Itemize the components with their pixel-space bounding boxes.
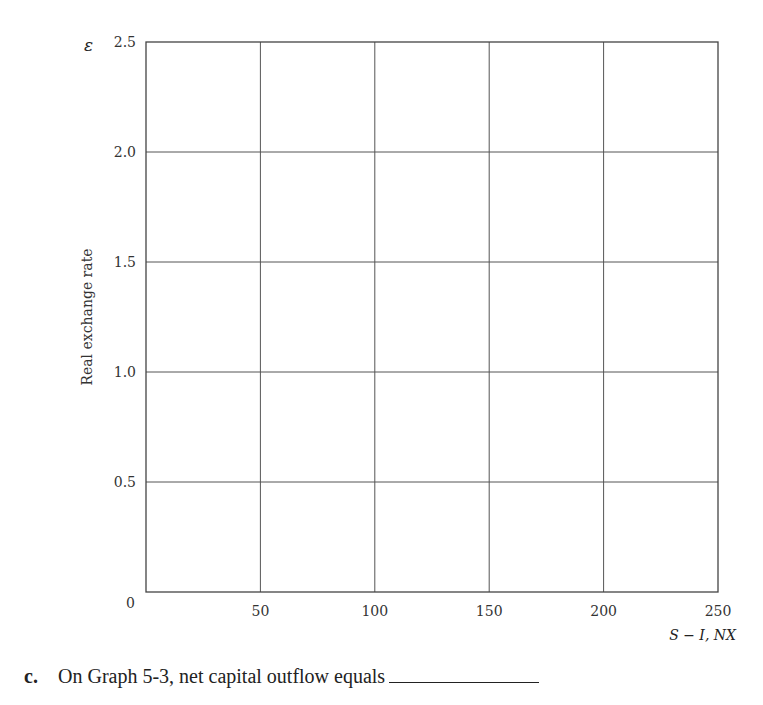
answer-blank[interactable]: [389, 664, 539, 683]
y-tick-label: 0.5: [114, 474, 136, 490]
question-c: c.On Graph 5-3, net capital outflow equa…: [24, 664, 539, 688]
question-text: On Graph 5-3, net capital outflow equals: [58, 665, 385, 687]
epsilon-symbol: ε: [84, 35, 93, 55]
blank-graph: 0.51.01.52.02.5 50100150200250 ε 0 Real …: [0, 0, 763, 705]
x-tick-label: 50: [251, 603, 269, 619]
y-axis-label: Real exchange rate: [79, 248, 95, 385]
plot-frame: [146, 42, 718, 592]
y-tick-label: 2.5: [114, 34, 136, 50]
x-tick-label: 200: [590, 603, 617, 619]
origin-label: 0: [126, 595, 135, 611]
x-tick-labels: 50100150200250: [251, 603, 731, 619]
x-tick-label: 150: [476, 603, 503, 619]
question-letter: c.: [24, 665, 58, 688]
x-axis-label: S − I, NX: [669, 627, 737, 643]
x-tick-label: 250: [705, 603, 732, 619]
y-tick-labels: 0.51.01.52.02.5: [114, 34, 136, 490]
x-tick-label: 100: [361, 603, 388, 619]
y-tick-label: 2.0: [114, 144, 136, 160]
y-tick-label: 1.5: [114, 254, 136, 270]
grid-lines: [146, 42, 718, 592]
y-tick-label: 1.0: [114, 364, 136, 380]
